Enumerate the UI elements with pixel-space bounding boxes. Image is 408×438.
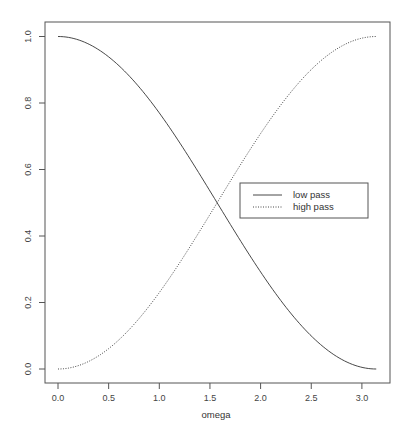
filter-response-chart: 0.00.51.01.52.02.53.0 0.00.20.40.60.81.0… — [0, 0, 408, 438]
x-axis: 0.00.51.01.52.02.53.0 — [52, 383, 368, 403]
legend-high-pass-label: high pass — [293, 201, 334, 212]
y-tick-label: 0.8 — [23, 97, 33, 110]
y-tick-label: 0.6 — [23, 163, 33, 176]
x-tick-label: 1.0 — [153, 393, 166, 403]
legend: low pass high pass — [240, 183, 368, 218]
legend-low-pass-label: low pass — [293, 189, 330, 200]
x-tick-label: 3.0 — [356, 393, 369, 403]
x-tick-label: 0.5 — [102, 393, 115, 403]
y-tick-label: 0.2 — [23, 296, 33, 309]
y-axis: 0.00.20.40.60.81.0 — [23, 30, 45, 375]
y-tick-label: 1.0 — [23, 30, 33, 43]
x-tick-label: 2.0 — [254, 393, 267, 403]
x-tick-label: 1.5 — [204, 393, 217, 403]
x-tick-label: 2.5 — [305, 393, 318, 403]
x-tick-label: 0.0 — [52, 393, 65, 403]
x-axis-label: omega — [201, 409, 231, 420]
y-tick-label: 0.4 — [23, 230, 33, 243]
y-tick-label: 0.0 — [23, 363, 33, 376]
